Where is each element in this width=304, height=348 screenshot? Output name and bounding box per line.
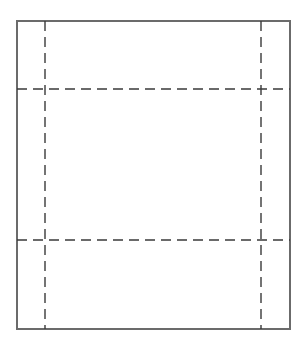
blank-outline [17,21,290,329]
box-net-diagram: Box blank fold-line diagram Rectangular … [0,0,304,348]
figure-container: Box blank fold-line diagram Rectangular … [0,0,304,348]
